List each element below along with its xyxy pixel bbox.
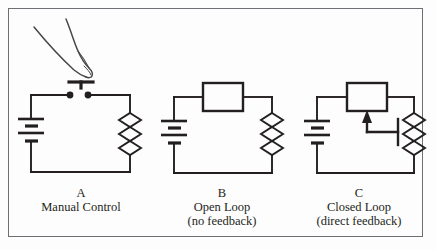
resistor-symbol	[403, 113, 425, 155]
circuit-a	[18, 19, 141, 172]
controller-box	[203, 83, 243, 111]
finger-pressing-switch	[34, 19, 92, 78]
caption-circuit-a: A Manual Control	[8, 186, 154, 214]
caption-c-line1: Closed Loop	[288, 200, 430, 214]
circuit-c	[304, 83, 425, 173]
caption-circuit-c: C Closed Loop (direct feedback)	[288, 186, 430, 228]
caption-c-letter: C	[288, 186, 430, 200]
figure-canvas: A Manual Control B Open Loop (no feedbac…	[0, 0, 437, 250]
caption-a-letter: A	[8, 186, 154, 200]
caption-b-line2: (no feedback)	[152, 214, 292, 228]
battery-symbol	[304, 121, 330, 143]
caption-b-line1: Open Loop	[152, 200, 292, 214]
circuit-a-wires	[31, 95, 130, 172]
caption-circuit-b: B Open Loop (no feedback)	[152, 186, 292, 228]
caption-a-line1: Manual Control	[8, 200, 154, 214]
controller-box	[347, 83, 387, 111]
battery-symbol	[18, 119, 44, 141]
resistor-symbol	[119, 113, 141, 155]
resistor-symbol	[261, 113, 283, 155]
circuit-b	[161, 83, 283, 173]
feedback-arrow	[362, 110, 398, 132]
pushbutton-switch	[67, 82, 93, 98]
caption-b-letter: B	[152, 186, 292, 200]
battery-symbol	[161, 121, 187, 143]
caption-c-line2: (direct feedback)	[288, 214, 430, 228]
